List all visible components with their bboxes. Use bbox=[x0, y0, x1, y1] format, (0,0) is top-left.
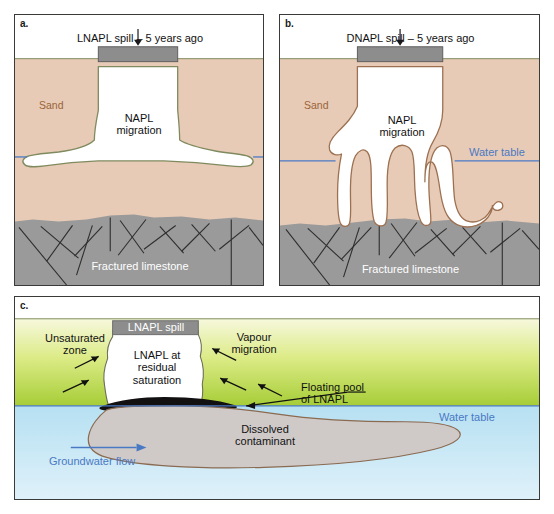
panel-a-letter: a. bbox=[20, 18, 28, 29]
panel-c-graphic bbox=[15, 297, 539, 499]
panel-a-graphic bbox=[15, 15, 263, 285]
figure-root: a. LNAPL spill – 5 years ago Sand NAPL m… bbox=[0, 0, 554, 514]
panel-b-graphic bbox=[280, 15, 539, 285]
panel-b-letter: b. bbox=[285, 18, 294, 29]
panel-c: c. LNAPL spill Unsaturated zone LNAPL at… bbox=[14, 296, 540, 500]
panel-a: a. LNAPL spill – 5 years ago Sand NAPL m… bbox=[14, 14, 264, 286]
panel-b: b. DNAPL spill – 5 years ago Sand NAPL m… bbox=[279, 14, 540, 286]
panel-c-letter: c. bbox=[20, 300, 28, 311]
